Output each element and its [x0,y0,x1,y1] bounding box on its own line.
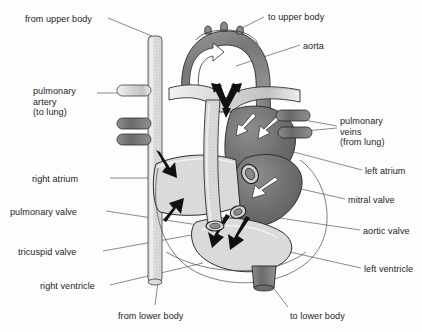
pulmonary-vein-stub-a [276,110,310,121]
label-right-atrium: right atrium [32,174,78,185]
label-right-ventricle: right ventricle [40,281,95,292]
inferior-vena-cava-cap [148,279,162,285]
label-pulmonary-artery: pulmonary artery (to lung) [33,86,76,118]
label-from-lower-body: from lower body [118,311,183,322]
pulmonary-artery-left-stub [117,85,151,96]
label-aorta: aorta [303,41,324,52]
vena-cava-column [148,36,162,282]
label-from-upper-body: from upper body [25,14,92,25]
leader-from-upper-body [108,18,152,36]
pulmonary-vein-stub-b [278,127,312,138]
leader-from-lower-body [155,282,158,305]
label-pulmonary-valve: pulmonary valve [10,207,77,218]
arch-branch-3 [237,26,244,34]
label-to-lower-body: to lower body [290,311,345,322]
right-atrium [153,150,240,222]
label-left-ventricle: left ventricle [364,264,413,275]
arch-branch-1 [205,26,212,34]
heart-diagram-page: from upper body to upper body aorta pulm… [0,0,422,332]
pulmonary-vein-left-stub-b [117,134,151,145]
label-left-atrium: left atrium [365,166,405,177]
label-mitral-valve: mitral valve [348,195,395,206]
label-pulmonary-veins: pulmonary veins (from lung) [340,116,385,148]
label-aortic-valve: aortic valve [363,226,410,237]
left-lung-vessel-stubs [117,85,151,145]
right-ventricle [192,214,292,272]
leader-left-atrium [286,150,362,170]
pulmonary-vein-left-stub-a [117,118,151,129]
label-tricuspid-valve: tricuspid valve [18,247,76,258]
descending-aorta-stub [252,266,276,291]
label-to-upper-body: to upper body [268,12,324,23]
